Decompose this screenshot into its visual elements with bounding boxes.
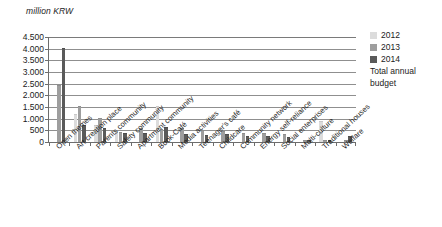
legend-item: 2012 — [370, 30, 440, 41]
legend-note-line-2: budget — [370, 78, 440, 89]
chart-figure: million KRW Open themesArt creation plac… — [0, 0, 442, 227]
x-axis-category-labels: Open themesArt creation placeParents com… — [48, 145, 356, 215]
legend-swatch-icon — [370, 32, 377, 39]
y-axis-tick-label: 3.500 — [2, 56, 44, 64]
legend-item: 2013 — [370, 42, 440, 53]
y-axis-tick-label: 0 — [2, 138, 44, 146]
legend-swatch-icon — [370, 44, 377, 51]
bar-group — [49, 37, 69, 142]
y-axis-tick-label: 1.500 — [2, 103, 44, 111]
legend-note-line-1: Total annual — [370, 66, 440, 77]
y-axis-tick-label: 2.500 — [2, 80, 44, 88]
legend-label: 2014 — [381, 55, 400, 64]
y-axis-tick-label: 4.500 — [2, 33, 44, 41]
legend-swatch-icon — [370, 56, 377, 63]
legend-label: 2013 — [381, 43, 400, 52]
legend-item: 2014 — [370, 54, 440, 65]
y-axis-tick-label: 500 — [2, 126, 44, 134]
y-axis-tick-label: 4.000 — [2, 45, 44, 53]
y-axis-unit-label: million KRW — [26, 6, 73, 16]
bar-2014 — [62, 48, 66, 142]
bar-2013 — [57, 85, 61, 142]
y-axis-tick-label: 2.000 — [2, 91, 44, 99]
chart-legend: 2012 2013 2014 Total annual budget — [370, 30, 440, 88]
y-axis-tick-label: 1.000 — [2, 115, 44, 123]
y-axis-tick-label: 3.000 — [2, 68, 44, 76]
legend-label: 2012 — [381, 31, 400, 40]
